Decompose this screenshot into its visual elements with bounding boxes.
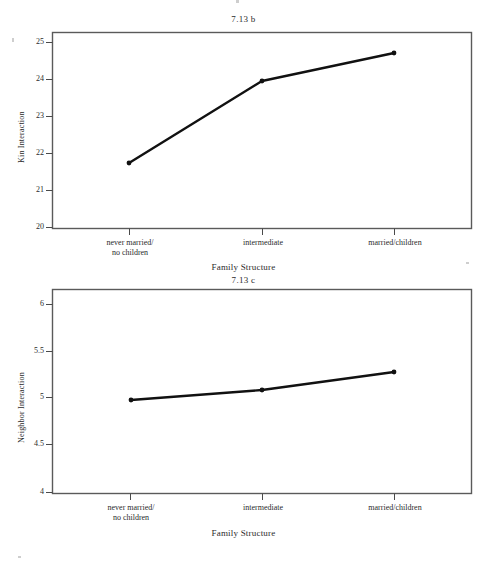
x-category-line: intermediate bbox=[207, 238, 319, 248]
data-point-b-3 bbox=[392, 51, 397, 56]
y-tick-label: 4 bbox=[20, 487, 44, 496]
x-axis-title-b: Family Structure bbox=[0, 262, 487, 272]
y-tick-label: 24 bbox=[20, 74, 44, 83]
x-category-label: never married/ no children bbox=[75, 503, 187, 523]
x-category-line: no children bbox=[75, 513, 187, 523]
x-category-label: never married/ no children bbox=[74, 238, 186, 258]
data-point-c-1 bbox=[129, 398, 134, 403]
figure-b-plot bbox=[0, 0, 487, 278]
x-ticks-b bbox=[130, 229, 395, 236]
x-category-line: no children bbox=[74, 248, 186, 258]
x-category-label: married/children bbox=[339, 238, 451, 248]
x-category-line: intermediate bbox=[207, 503, 319, 513]
data-point-b-1 bbox=[127, 161, 132, 166]
y-tick-label: 5.5 bbox=[20, 346, 44, 355]
y-tick-label: 20 bbox=[20, 222, 44, 231]
figure-7-13-b: 7.13 b bbox=[0, 0, 487, 278]
y-axis-title-c: Neighbor Interaction bbox=[17, 372, 26, 443]
x-category-label: intermediate bbox=[207, 503, 319, 513]
data-point-c-2 bbox=[260, 388, 265, 393]
data-point-b-2 bbox=[260, 79, 265, 84]
x-category-line: never married/ bbox=[75, 503, 187, 513]
figure-c-plot bbox=[0, 275, 487, 565]
x-category-label: married/children bbox=[339, 503, 451, 513]
x-category-label: intermediate bbox=[207, 238, 319, 248]
data-point-c-3 bbox=[392, 370, 397, 375]
y-tick-label: 25 bbox=[20, 37, 44, 46]
y-ticks-b bbox=[46, 43, 53, 228]
x-category-line: married/children bbox=[339, 503, 451, 513]
x-category-line: married/children bbox=[339, 238, 451, 248]
plot-frame-b bbox=[53, 33, 472, 229]
x-ticks-c bbox=[131, 494, 395, 501]
y-axis-title-b: Kin Interaction bbox=[17, 111, 26, 163]
figure-page: 7.13 b bbox=[0, 0, 487, 565]
y-tick-label: 21 bbox=[20, 185, 44, 194]
y-tick-label: 6 bbox=[20, 299, 44, 308]
x-axis-title-c: Family Structure bbox=[0, 528, 487, 538]
x-category-line: never married/ bbox=[74, 238, 186, 248]
figure-7-13-c: 7.13 c 6 bbox=[0, 275, 487, 565]
y-ticks-c bbox=[46, 305, 53, 493]
